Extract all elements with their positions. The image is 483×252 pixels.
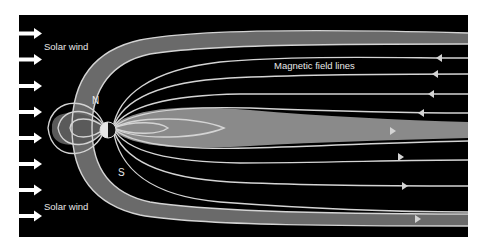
field-lines-label: Magnetic field lines xyxy=(274,60,355,71)
south-pole-label: S xyxy=(118,167,125,178)
solar-wind-label-bottom: Solar wind xyxy=(44,201,88,212)
magnetosphere-diagram: Magnetic field lines Solar wind Solar wi… xyxy=(0,0,483,252)
solar-wind-label-top: Solar wind xyxy=(44,41,88,52)
north-pole-label: N xyxy=(92,95,99,106)
earth xyxy=(100,122,116,138)
